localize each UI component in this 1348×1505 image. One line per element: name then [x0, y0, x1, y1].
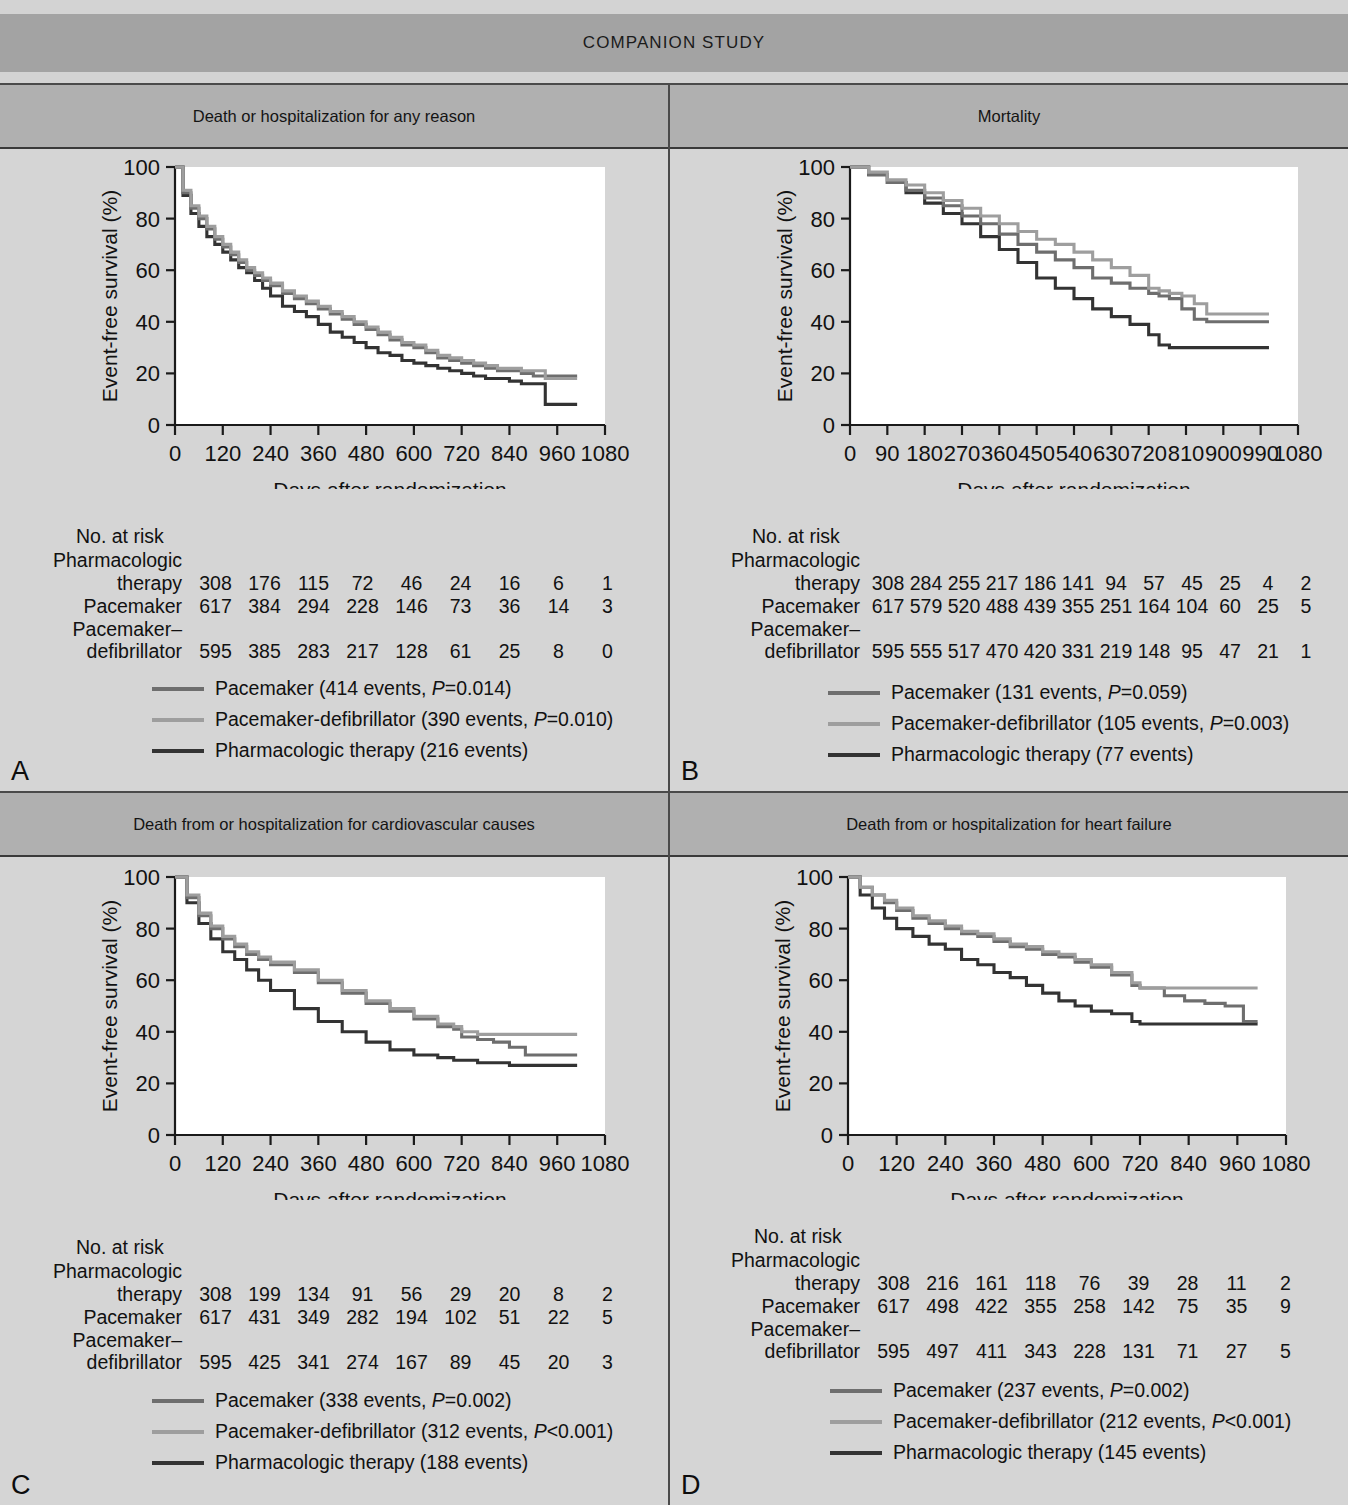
risk-row-values: 3081991349156292082: [191, 1283, 632, 1306]
no-at-risk-table: No. at riskPharmacologic therapy30821616…: [710, 1225, 1310, 1363]
panel-letter-b: B: [681, 758, 699, 785]
risk-value: 2: [1261, 1272, 1310, 1295]
risk-value: 60: [1211, 595, 1249, 618]
risk-value: 251: [1097, 595, 1135, 618]
legend-swatch-pacemaker: [152, 687, 204, 691]
chart-legend: Pacemaker (338 events, P=0.002)Pacemaker…: [152, 1385, 613, 1478]
p-symbol: P: [1210, 712, 1223, 734]
risk-value: 341: [289, 1351, 338, 1374]
risk-value: 91: [338, 1283, 387, 1306]
x-tick-label: 480: [1024, 1151, 1061, 1176]
risk-value: 5: [1287, 595, 1325, 618]
chart-legend: Pacemaker (414 events, P=0.014)Pacemaker…: [152, 673, 613, 766]
risk-value: 22: [534, 1306, 583, 1329]
x-tick-label: 540: [1056, 441, 1093, 466]
x-tick-label: 480: [348, 441, 385, 466]
risk-value: 8: [534, 640, 583, 663]
legend-label: Pacemaker (131 events, P=0.059): [891, 681, 1187, 704]
risk-value: 349: [289, 1306, 338, 1329]
risk-value: 355: [1059, 595, 1097, 618]
x-tick-label: 360: [300, 1151, 337, 1176]
risk-value: 45: [485, 1351, 534, 1374]
x-tick-label: 600: [396, 441, 433, 466]
risk-value: 73: [436, 595, 485, 618]
legend-label: Pacemaker (338 events, P=0.002): [215, 1389, 511, 1412]
risk-value: 71: [1163, 1340, 1212, 1363]
risk-value: 164: [1135, 595, 1173, 618]
risk-value: 194: [387, 1306, 436, 1329]
risk-value: 255: [945, 572, 983, 595]
risk-row-values: 61743134928219410251225: [191, 1306, 632, 1329]
y-tick-label: 60: [136, 258, 160, 283]
y-tick-label: 40: [811, 310, 835, 335]
risk-value: 16: [485, 572, 534, 595]
x-tick-label: 810: [1168, 441, 1205, 466]
legend-label: Pacemaker (414 events, P=0.014): [215, 677, 511, 700]
figure-banner: COMPANION STUDY: [0, 14, 1348, 72]
legend-item: Pharmacologic therapy (145 events): [830, 1437, 1291, 1468]
x-tick-label: 240: [927, 1151, 964, 1176]
no-at-risk-title: No. at risk: [76, 525, 632, 548]
risk-value: 199: [240, 1283, 289, 1306]
panel-b: Mortality0204060801000901802703604505406…: [670, 83, 1348, 791]
x-tick-label: 960: [539, 1151, 576, 1176]
x-tick-label: 360: [300, 441, 337, 466]
y-tick-label: 60: [136, 968, 160, 993]
y-tick-label: 20: [136, 361, 160, 386]
panel-a: Death or hospitalization for any reason0…: [0, 83, 670, 791]
risk-value: 11: [1212, 1272, 1261, 1295]
x-tick-label: 720: [443, 1151, 480, 1176]
legend-swatch-pharmacologic-therapy: [152, 1461, 204, 1465]
p-symbol: P: [1108, 681, 1121, 703]
panel-header-title: Death or hospitalization for any reason: [193, 107, 476, 126]
risk-value: 331: [1059, 640, 1097, 663]
risk-value: 228: [1065, 1340, 1114, 1363]
legend-label: Pacemaker-defibrillator (312 events, P<0…: [215, 1420, 613, 1443]
no-at-risk-title: No. at risk: [752, 525, 1325, 548]
risk-value: 161: [967, 1272, 1016, 1295]
legend-swatch-pacemaker: [152, 1399, 204, 1403]
legend-item: Pacemaker (414 events, P=0.014): [152, 673, 613, 704]
legend-item: Pacemaker-defibrillator (105 events, P=0…: [828, 708, 1289, 739]
x-tick-label: 960: [539, 441, 576, 466]
risk-value: 579: [907, 595, 945, 618]
y-tick-label: 20: [811, 361, 835, 386]
risk-row-label: Pacemaker– defibrillator: [710, 1318, 869, 1364]
legend-item: Pacemaker (237 events, P=0.002): [830, 1375, 1291, 1406]
panel-header-title: Death from or hospitalization for cardio…: [133, 815, 535, 834]
risk-row-values: 3081761157246241661: [191, 572, 632, 595]
panel-grid: Death or hospitalization for any reason0…: [0, 83, 1348, 1505]
risk-value: 258: [1065, 1295, 1114, 1318]
legend-label: Pharmacologic therapy (77 events): [891, 743, 1193, 766]
risk-value: 39: [1114, 1272, 1163, 1295]
risk-value: 142: [1114, 1295, 1163, 1318]
x-tick-label: 240: [252, 441, 289, 466]
legend-label: Pacemaker-defibrillator (105 events, P=0…: [891, 712, 1289, 735]
risk-row: Pacemaker6173842942281467336143: [32, 595, 632, 618]
risk-value: 3: [583, 595, 632, 618]
risk-value: 76: [1065, 1272, 1114, 1295]
risk-value: 57: [1135, 572, 1173, 595]
risk-value: 595: [869, 1340, 918, 1363]
risk-row: Pacemaker– defibrillator5954974113432281…: [710, 1318, 1310, 1364]
risk-value: 1: [583, 572, 632, 595]
risk-value: 186: [1021, 572, 1059, 595]
risk-row-values: 5955555174704203312191489547211: [869, 640, 1325, 663]
risk-value: 45: [1173, 572, 1211, 595]
legend-label: Pacemaker-defibrillator (390 events, P=0…: [215, 708, 613, 731]
risk-row-label: Pacemaker: [710, 1295, 869, 1318]
risk-value: 217: [338, 640, 387, 663]
panel-c-header: Death from or hospitalization for cardio…: [0, 793, 668, 857]
risk-row-label: Pharmacologic therapy: [32, 1260, 191, 1306]
risk-value: 294: [289, 595, 338, 618]
legend-item: Pharmacologic therapy (188 events): [152, 1447, 613, 1478]
risk-value: 470: [983, 640, 1021, 663]
risk-value: 25: [1249, 595, 1287, 618]
chart-legend: Pacemaker (131 events, P=0.059)Pacemaker…: [828, 677, 1289, 770]
risk-value: 3: [583, 1351, 632, 1374]
y-axis-label: Event-free survival (%): [773, 190, 796, 402]
risk-row-values: 59549741134322813171275: [869, 1340, 1310, 1363]
risk-row-values: 61757952048843935525116410460255: [869, 595, 1325, 618]
risk-value: 219: [1097, 640, 1135, 663]
risk-value: 94: [1097, 572, 1135, 595]
